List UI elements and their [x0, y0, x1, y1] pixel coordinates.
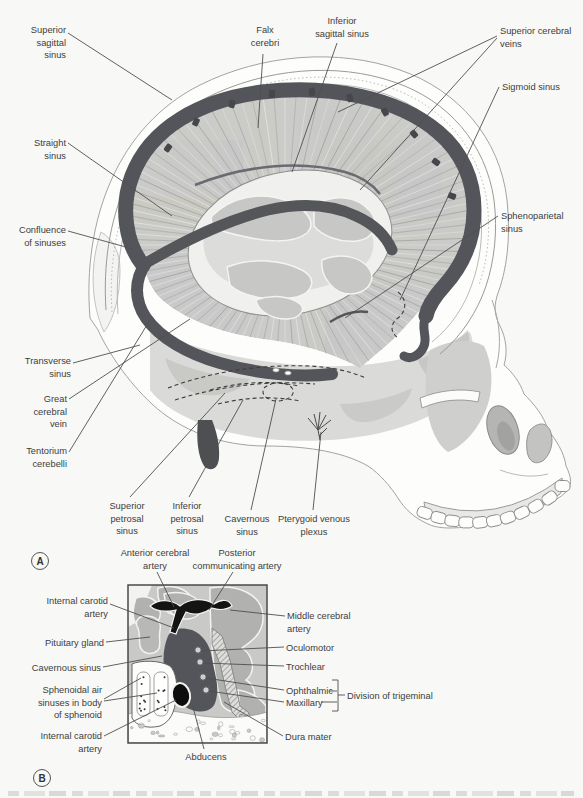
label-sphenoparietal-sinus: Sphenoparietal sinus — [501, 210, 579, 235]
label-cavernous-sinus-b: Cavernous sinus — [29, 662, 101, 675]
label-inferior-petrosal-sinus: Inferior petrosal sinus — [164, 500, 210, 538]
label-anterior-cerebral-artery: Anterior cerebral artery — [115, 547, 195, 572]
label-internal-carotid-artery-upper: Internal carotid artery — [40, 595, 108, 620]
panel-b-illustration — [128, 585, 267, 743]
label-superior-sagittal-sinus: Superior sagittal sinus — [14, 24, 66, 62]
figure-page: Superior sagittal sinus Falx cerebri Inf… — [0, 0, 583, 798]
label-pterygoid-venous-plexus: Pterygoid venous plexus — [275, 513, 353, 538]
label-falx-cerebri: Falx cerebri — [235, 24, 295, 49]
label-ophthalmic: Ophthalmic — [286, 685, 341, 698]
figure-artwork — [0, 0, 583, 798]
label-oculomotor: Oculomotor — [286, 642, 346, 655]
label-dura-mater: Dura mater — [285, 731, 340, 744]
label-transverse-sinus: Transverse sinus — [14, 355, 71, 380]
label-abducens: Abducens — [181, 751, 231, 764]
label-trochlear: Trochlear — [286, 661, 341, 674]
label-superior-petrosal-sinus: Superior petrosal sinus — [103, 500, 151, 538]
panel-b-tag: B — [33, 769, 51, 787]
label-sigmoid-sinus: Sigmoid sinus — [502, 81, 580, 94]
label-pituitary-gland: Pituitary gland — [38, 637, 104, 650]
label-middle-cerebral-artery: Middle cerebral artery — [287, 610, 357, 635]
panel-a-tag: A — [31, 552, 49, 570]
label-straight-sinus: Straight sinus — [16, 137, 66, 162]
label-tentorium-cerebelli: Tentorium cerebelli — [19, 445, 67, 470]
label-maxillary: Maxillary — [286, 697, 336, 710]
cropped-caption-text — [8, 791, 574, 796]
label-sphenoidal-air-sinuses: Sphenoidal air sinuses in body of spheno… — [32, 684, 102, 722]
label-confluence-of-sinuses: Confluence of sinuses — [10, 224, 66, 249]
label-inferior-sagittal-sinus: Inferior sagittal sinus — [302, 15, 382, 40]
label-great-cerebral-vein: Great cerebral vein — [23, 393, 67, 431]
label-posterior-communicating-artery: Posterior communicating artery — [188, 547, 286, 572]
label-superior-cerebral-veins: Superior cerebral veins — [500, 25, 580, 50]
label-cavernous-sinus-a: Cavernous sinus — [222, 513, 272, 538]
label-division-of-trigeminal: Division of trigeminal — [347, 690, 457, 703]
label-internal-carotid-artery-lower: Internal carotid artery — [34, 730, 102, 755]
